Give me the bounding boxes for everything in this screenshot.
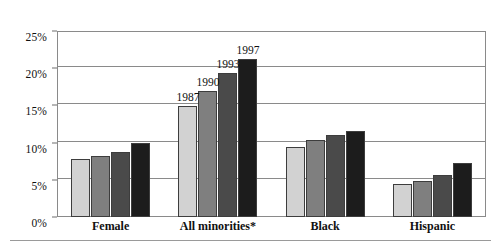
- category-label-black: Black: [310, 219, 339, 234]
- year-annotation-1990: 1990: [196, 76, 219, 88]
- bottom-divider: [10, 240, 491, 241]
- category-label-female: Female: [92, 219, 129, 234]
- category-label-hispanic: Hispanic: [410, 219, 455, 234]
- bar-black-1993: [326, 135, 345, 217]
- bar-black-1997: [346, 131, 365, 217]
- y-axis: 0%5%10%15%20%25%: [0, 31, 57, 217]
- bar-hispanic-1987: [393, 184, 412, 217]
- x-axis-category-labels: FemaleAll minorities*BlackHispanic: [57, 219, 486, 239]
- bar-hispanic-1990: [413, 181, 432, 217]
- bar-female-1987: [71, 159, 90, 217]
- bar-allminorities-1997: [238, 59, 257, 217]
- year-annotation-1993: 1993: [216, 58, 239, 70]
- bar-hispanic-1993: [433, 175, 452, 217]
- bar-allminorities-1990: [198, 91, 217, 217]
- bar-female-1997: [131, 143, 150, 217]
- bar-chart-figure: · 0%5%10%15%20%25% 1987199019931997 Fema…: [0, 0, 501, 246]
- clipped-text: ·: [24, 0, 28, 4]
- bars-layer: 1987199019931997: [57, 31, 486, 217]
- category-label-allminorities: All minorities*: [180, 219, 256, 234]
- bar-black-1987: [286, 147, 305, 217]
- year-annotation-1997: 1997: [236, 44, 259, 56]
- clipped-text-artifact: ·: [0, 0, 501, 8]
- bar-hispanic-1997: [453, 163, 472, 217]
- bar-black-1990: [306, 140, 325, 217]
- bar-female-1990: [91, 156, 110, 217]
- bar-allminorities-1987: [178, 106, 197, 217]
- bar-female-1993: [111, 152, 130, 217]
- year-annotation-1987: 1987: [176, 91, 199, 103]
- bar-allminorities-1993: [218, 73, 237, 217]
